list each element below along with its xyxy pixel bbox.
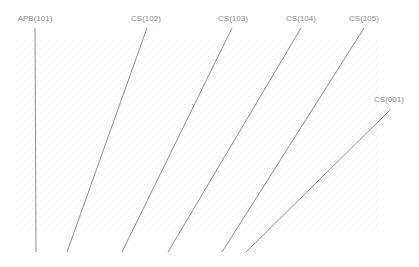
label-cs-001: CS(001) — [374, 95, 404, 104]
label-cs-105: CS(105) — [349, 14, 379, 23]
diagram-canvas: APB(101)CS(102)CS(103)CS(104)CS(105)CS(0… — [0, 0, 419, 267]
label-cs-103: CS(103) — [218, 14, 248, 23]
label-apb-101: APB(101) — [18, 14, 53, 23]
label-cs-102: CS(102) — [131, 14, 161, 23]
label-cs-104: CS(104) — [286, 14, 316, 23]
